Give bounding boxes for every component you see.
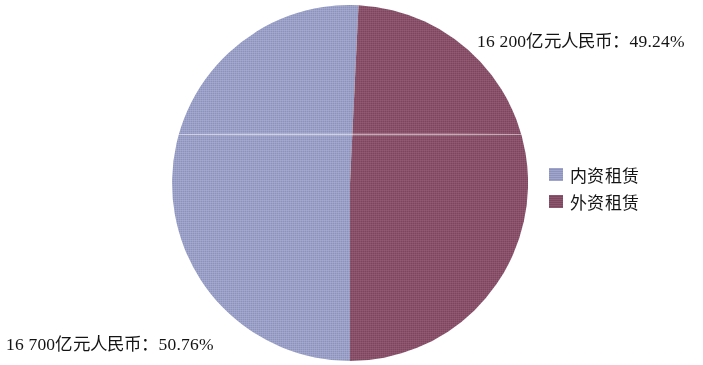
legend-swatch-icon-foreign: [549, 195, 563, 208]
slice-label-foreign: 16 200亿元人民币：49.24%: [477, 31, 685, 52]
pie-slice-domestic[interactable]: [172, 5, 358, 361]
legend-item-foreign[interactable]: 外资租赁: [549, 188, 639, 215]
slice-label-domestic: 16 700亿元人民币：50.76%: [6, 334, 214, 355]
legend-item-domestic[interactable]: 内资租赁: [549, 161, 639, 188]
pie-chart: 16 200亿元人民币：49.24% 16 700亿元人民币：50.76% 内资…: [0, 0, 703, 365]
pie-graphic: [172, 5, 528, 361]
pie-slice-foreign[interactable]: [350, 5, 528, 361]
legend: 内资租赁 外资租赁: [549, 161, 639, 215]
legend-label-domestic: 内资租赁: [570, 162, 639, 187]
legend-label-foreign: 外资租赁: [570, 189, 639, 214]
pie-svg: [172, 5, 528, 361]
legend-swatch-icon-domestic: [549, 168, 563, 181]
